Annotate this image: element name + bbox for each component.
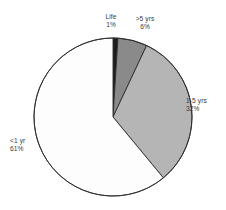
pie-slices-group [34, 38, 192, 196]
pie-label-1to5yrs-percent: 32% [186, 105, 226, 113]
pie-label-1to5yrs-name: 1-5 yrs [186, 97, 226, 105]
pie-chart-figure: Life 1% >5 yrs 6% 1-5 yrs 32% <1 yr 61% [0, 0, 226, 210]
pie-label-life-name: Life [94, 13, 128, 21]
pie-label-gt5yrs-name: >5 yrs [127, 15, 163, 23]
pie-label-1to5yrs: 1-5 yrs 32% [186, 97, 226, 114]
pie-label-lt1yr-percent: 61% [10, 145, 50, 153]
pie-label-lt1yr: <1 yr 61% [10, 137, 50, 154]
pie-label-life-percent: 1% [94, 21, 128, 29]
pie-label-gt5yrs: >5 yrs 6% [127, 15, 163, 32]
pie-label-life: Life 1% [94, 13, 128, 30]
pie-label-lt1yr-name: <1 yr [10, 137, 50, 145]
pie-label-gt5yrs-percent: 6% [127, 23, 163, 31]
